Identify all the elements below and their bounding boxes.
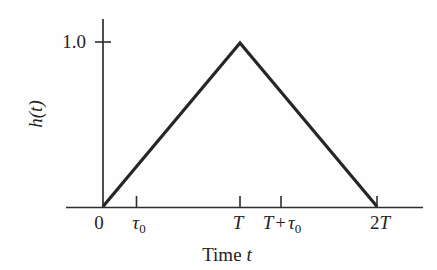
x-tick-label-T-plus-tau0: T+τ0 [263, 212, 302, 236]
x-tick-label-0: 0 [94, 212, 104, 234]
x-tick-label-tau0: τ0 [132, 212, 145, 236]
x-axis-label-variable: t [247, 244, 252, 265]
x-tick-label-2T: 2T [370, 212, 390, 234]
tau-subscript: 0 [139, 221, 146, 236]
triangle-response-curve [103, 43, 377, 207]
x-axis-label-word: Time [202, 244, 241, 265]
T-symbol: T [379, 212, 390, 233]
x-tick-label-T: T [233, 212, 244, 234]
y-tick-label: 1.0 [62, 31, 86, 53]
T-symbol: T [263, 212, 274, 233]
plus-sign: + [275, 212, 286, 233]
two-digit: 2 [370, 212, 380, 233]
tau-symbol: τ [132, 212, 139, 233]
triangular-response-figure: 1.0 h(t) 0 τ0 T T+τ0 2T Timet [0, 0, 437, 270]
tau-subscript: 0 [295, 221, 302, 236]
x-axis-label: Timet [202, 244, 252, 266]
y-axis-label: h(t) [25, 100, 47, 127]
